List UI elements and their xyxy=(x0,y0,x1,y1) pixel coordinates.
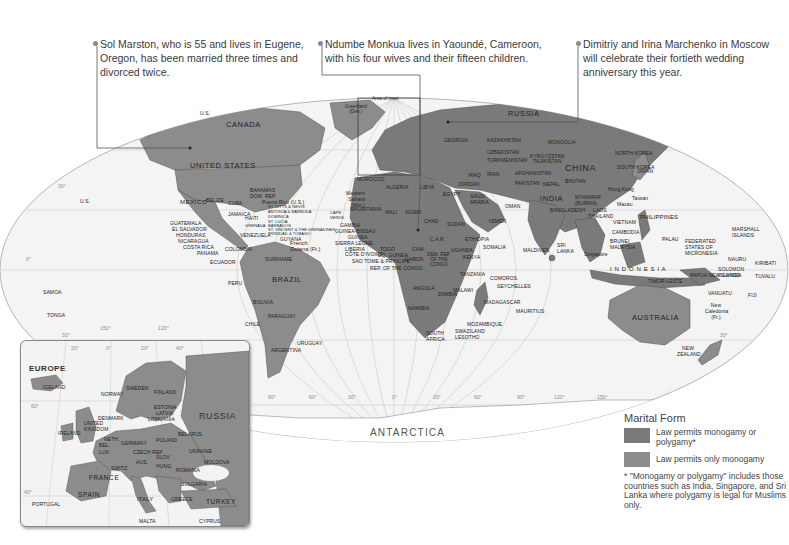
label-kenya: KENYA xyxy=(463,254,480,260)
label-mali: MALI xyxy=(385,209,397,215)
inset-bel: BEL. xyxy=(99,442,110,448)
label-singapore: Singapore xyxy=(584,251,608,257)
label-uganda: UGANDA xyxy=(451,247,473,253)
label-sao-tome: SAO TOME & PRINCIPE xyxy=(352,258,410,264)
lat-label-30s-east: 30° xyxy=(720,332,728,338)
label-libya: LIBYA xyxy=(420,184,434,190)
inset-belarus: BELARUS xyxy=(178,431,202,437)
inset-greece: GREECE xyxy=(171,496,193,502)
inset-united-kingdom: UNITED KINGDOM xyxy=(84,420,114,432)
label-oman: OMAN xyxy=(505,203,520,209)
label-macau: Macau xyxy=(617,201,633,207)
label-chile: CHILE xyxy=(245,321,260,327)
label-new-zealand: NEW ZEALAND xyxy=(677,345,699,357)
label-comoros: COMOROS xyxy=(490,275,517,281)
legend-label-polygamy: Law permits monogamy or polygamy* xyxy=(656,428,766,447)
label-bolivia: BOLIVIA xyxy=(253,299,273,305)
label-russia: RUSSIA xyxy=(508,109,540,118)
label-hong-kong: Hong Kong xyxy=(608,186,634,192)
inset-title: EUROPE xyxy=(29,364,66,373)
inset-russia: RUSSIA xyxy=(199,411,236,421)
label-sudan: SUDAN xyxy=(447,221,465,227)
inset-lon-40e: 40° xyxy=(176,345,184,351)
label-jordan: JORDAN xyxy=(458,181,479,187)
label-algeria: ALGERIA xyxy=(386,184,408,190)
inset-norway: NORWAY xyxy=(101,391,123,397)
label-ethiopia: ETHIOPIA xyxy=(465,236,489,242)
legend-label-monogamy: Law permits only monogamy xyxy=(656,452,764,465)
inset-portugal: PORTUGAL xyxy=(32,501,60,507)
label-japan: JAPAN xyxy=(637,168,653,174)
inset-sweden: SWEDEN xyxy=(126,385,149,391)
inset-turkey: TURKEY xyxy=(206,498,236,505)
label-indonesia: I N D O N E S I A xyxy=(610,266,666,272)
label-iraq: IRAQ xyxy=(468,172,481,178)
inset-italy: ITALY xyxy=(137,496,153,502)
lon-label-60w: 60° xyxy=(309,394,317,400)
label-mauritius: MAURITIUS xyxy=(516,308,544,314)
inset-lon-0: 0° xyxy=(106,345,111,351)
legend: Marital Form Law permits monogamy or pol… xyxy=(624,412,789,510)
label-kazakhstan: KAZAKHSTAN xyxy=(487,137,521,143)
inset-malta: MALTA xyxy=(139,518,155,524)
label-marshall-islands: MARSHALL ISLANDS xyxy=(732,226,754,238)
label-pakistan: PAKISTAN xyxy=(515,180,540,186)
inset-cyprus: CYPRUS xyxy=(199,518,220,524)
label-seychelles: SEYCHELLES xyxy=(497,283,531,289)
legend-footnote: * "Monogamy or polygamy" includes those … xyxy=(624,472,789,510)
label-georgia: GEORGIA xyxy=(444,137,468,143)
label-sri-lanka: SRI LANKA xyxy=(557,242,571,254)
italy xyxy=(131,476,156,513)
label-bangladesh: BANGLADESH xyxy=(550,207,585,213)
label-argentina: ARGENTINA xyxy=(271,347,301,353)
label-mexico: MEXICO xyxy=(180,199,207,205)
label-australia: AUSTRALIA xyxy=(632,313,679,322)
label-paraguay: PARAGUAY xyxy=(268,313,296,319)
inset-lat-60: 60° xyxy=(31,403,39,409)
label-morocco: MOROCCO xyxy=(357,176,384,182)
lon-label-90w: 90° xyxy=(268,394,276,400)
label-samoa: SAMOA xyxy=(43,289,62,295)
legend-item-polygamy: Law permits monogamy or polygamy* xyxy=(624,428,789,447)
legend-swatch-monogamy xyxy=(624,452,650,467)
inset-moldova: MOLDOVA xyxy=(204,459,229,465)
label-chad: CHAD xyxy=(424,218,439,224)
label-rep-congo: REP. OF THE CONGO xyxy=(370,265,423,271)
label-suriname: SURINAME xyxy=(265,256,292,262)
label-new-caledonia: New Caledonia (Fr.) xyxy=(705,302,727,320)
label-antarctica: ANTARCTICA xyxy=(370,427,445,438)
label-car: C.A.R. xyxy=(430,236,445,242)
label-india: INDIA xyxy=(540,194,563,203)
label-vanuatu: VANUATU xyxy=(708,290,732,296)
label-iran: IRAN xyxy=(487,171,499,177)
label-palau: PALAU xyxy=(662,236,679,242)
legend-title: Marital Form xyxy=(624,412,789,424)
lat-label-30s: 30° xyxy=(62,332,70,338)
label-thailand: THAILAND xyxy=(588,213,614,219)
label-mauritania: MAURITANIA xyxy=(350,206,381,212)
inset-slovakia: SLOV. xyxy=(156,454,171,460)
legend-swatch-polygamy xyxy=(624,428,650,443)
label-namibia: NAMIBIA xyxy=(408,305,429,311)
label-turkmenistan: TURKMENISTAN xyxy=(487,157,527,163)
label-lesotho: LESOTHO xyxy=(455,334,480,340)
label-belize: BELIZE xyxy=(206,197,224,203)
inset-poland: POLAND xyxy=(156,437,177,443)
label-cambodia: CAMBODIA xyxy=(612,229,639,235)
label-egypt: EGYPT xyxy=(443,191,460,197)
label-taiwan: Taiwan xyxy=(632,195,648,201)
label-venezuela: VENEZUELA xyxy=(240,232,271,238)
label-fiji: FIJI xyxy=(748,292,757,298)
label-haiti: HAITI xyxy=(245,215,258,221)
label-greenland: Greenland (Den.) xyxy=(340,104,372,114)
label-angola: ANGOLA xyxy=(413,285,434,291)
label-nepal: NEPAL xyxy=(543,181,560,187)
label-colombia: COLOMBIA xyxy=(225,246,252,252)
lat-label-0: 0° xyxy=(26,256,31,262)
lon-label-30e: 30° xyxy=(433,394,441,400)
inset-spain: SPAIN xyxy=(78,491,100,498)
label-peru: PERU xyxy=(228,280,242,286)
label-bhutan: BHUTAN xyxy=(565,178,586,184)
lon-label-90e: 90° xyxy=(517,394,525,400)
label-mozambique: MOZAMBIQUE xyxy=(467,321,502,327)
